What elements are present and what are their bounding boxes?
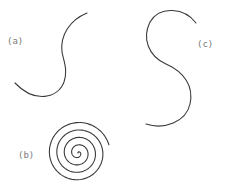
label-b: (b) <box>18 150 34 160</box>
label-c: (c) <box>197 39 213 49</box>
curve-c <box>146 10 196 126</box>
panel-b: (b) <box>18 123 109 180</box>
label-a: (a) <box>7 36 23 46</box>
curve-a <box>15 13 87 96</box>
figure-canvas: (a) (b) (c) <box>0 0 225 187</box>
panel-c: (c) <box>146 10 213 126</box>
panel-a: (a) <box>7 13 87 96</box>
spiral-b <box>49 123 109 180</box>
